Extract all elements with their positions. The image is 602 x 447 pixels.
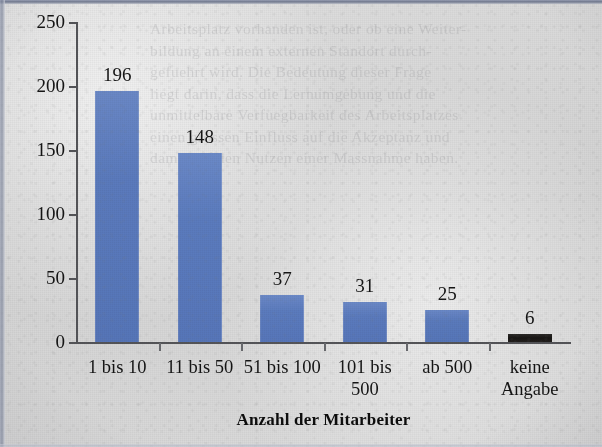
x-axis-category-label: 51 bis 100 <box>244 356 321 378</box>
x-axis-category-label-line: 11 bis 50 <box>166 356 233 378</box>
y-axis-tick <box>69 278 77 280</box>
bar-value-label: 148 <box>186 126 215 148</box>
bar-value-label: 25 <box>438 283 457 305</box>
bar: 196 <box>95 91 139 342</box>
bar: 31 <box>343 302 387 342</box>
x-axis-tick <box>324 343 326 351</box>
bar: 6 <box>508 334 552 342</box>
x-axis-category-label: keineAngabe <box>501 356 559 400</box>
x-axis-category-label: 11 bis 50 <box>166 356 233 378</box>
bar-value-label: 31 <box>355 275 374 297</box>
x-axis-category-label-line: ab 500 <box>422 356 472 378</box>
bar: 148 <box>178 153 222 342</box>
y-axis-tick-label: 150 <box>37 139 66 161</box>
x-axis-category-label-line: Angabe <box>501 378 559 400</box>
bar: 25 <box>425 310 469 342</box>
x-axis-title: Anzahl der Mitarbeiter <box>76 410 571 430</box>
x-axis-category-label: 101 bis500 <box>338 356 392 400</box>
x-axis-category-label-line: 500 <box>338 378 392 400</box>
x-axis-category-label-line: 51 bis 100 <box>244 356 321 378</box>
y-axis-tick-label: 0 <box>56 331 66 353</box>
y-axis-tick <box>69 22 77 24</box>
x-axis-tick <box>241 343 243 351</box>
x-axis-category-label: ab 500 <box>422 356 472 378</box>
scanned-page: Arbeitsplatz vorhanden ist, oder ob eine… <box>0 0 602 447</box>
x-axis-category-label-line: 1 bis 10 <box>88 356 147 378</box>
x-axis-tick <box>489 343 491 351</box>
x-axis-tick <box>406 343 408 351</box>
y-axis-tick-label: 100 <box>37 203 66 225</box>
x-axis-category-label-line: keine <box>501 356 559 378</box>
y-axis-tick <box>69 342 77 344</box>
y-axis-tick <box>69 214 77 216</box>
scan-edge-top <box>0 0 602 4</box>
bar-chart: Anzahl der Unternehmen 050100150200250 1… <box>0 0 602 447</box>
bar-value-label: 37 <box>273 268 292 290</box>
y-axis-tick <box>69 150 77 152</box>
y-axis-tick <box>69 86 77 88</box>
y-axis-line <box>76 22 78 344</box>
y-axis-tick-label: 50 <box>46 267 65 289</box>
x-axis-tick <box>159 343 161 351</box>
x-axis-category-label: 1 bis 10 <box>88 356 147 378</box>
bar: 37 <box>260 295 304 342</box>
bar-value-label: 196 <box>103 64 132 86</box>
scan-edge-left <box>0 0 5 447</box>
y-axis-tick-label: 250 <box>37 11 66 33</box>
bar-value-label: 6 <box>525 307 535 329</box>
x-axis-category-label-line: 101 bis <box>338 356 392 378</box>
y-axis-tick-label: 200 <box>37 75 66 97</box>
plot-area: 050100150200250 1961483731256 1 bis 1011… <box>76 22 571 344</box>
